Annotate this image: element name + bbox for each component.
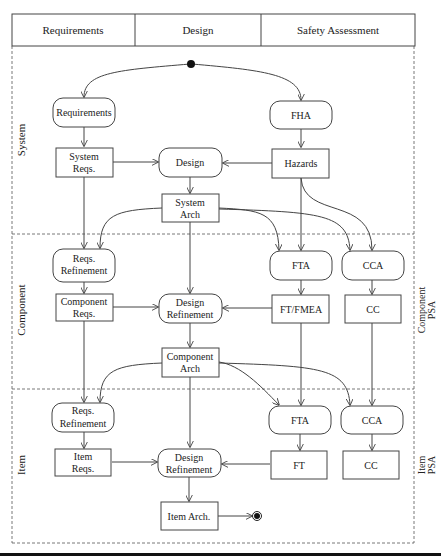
activity-component-reqs-refinement[interactable]: Reqs. Refinement (53, 249, 115, 282)
lane-label-item-psa-2: PSA (426, 455, 437, 474)
artifact-item-reqs[interactable]: Item Reqs. (55, 449, 111, 476)
activity-item-cca[interactable]: CCA (341, 406, 403, 434)
svg-text:Hazards: Hazards (285, 158, 318, 169)
artifact-item-cc[interactable]: CC (343, 451, 399, 479)
activity-fha[interactable]: FHA (270, 101, 332, 129)
svg-text:FTA: FTA (291, 415, 310, 426)
artifact-item-ft[interactable]: FT (271, 451, 327, 479)
start-node (187, 60, 195, 68)
svg-text:Reqs.: Reqs. (72, 405, 95, 416)
svg-text:Reqs.: Reqs. (73, 253, 96, 264)
header-design: Design (182, 24, 214, 36)
svg-text:Design: Design (176, 157, 204, 168)
svg-text:Arch: Arch (180, 209, 200, 220)
lane-label-component: Component (15, 284, 27, 335)
artifact-component-reqs[interactable]: Component Reqs. (56, 294, 113, 321)
header-requirements: Requirements (42, 24, 103, 36)
process-diagram: Requirements Design Safety Assessment Sy… (0, 0, 444, 560)
artifact-component-cc[interactable]: CC (345, 295, 401, 323)
edges (84, 64, 372, 516)
artifact-component-arch[interactable]: Component Arch (162, 348, 219, 377)
svg-text:Design: Design (175, 452, 203, 463)
svg-text:Item: Item (74, 451, 93, 462)
activity-component-design-refinement[interactable]: Design Refinement (159, 294, 222, 323)
svg-text:System: System (69, 151, 99, 162)
header-safety-assessment: Safety Assessment (297, 24, 379, 36)
svg-text:Refinement: Refinement (61, 265, 108, 276)
svg-text:Requirements: Requirements (56, 107, 112, 118)
svg-text:CCA: CCA (362, 415, 383, 426)
svg-text:Refinement: Refinement (60, 418, 107, 429)
svg-text:System: System (175, 197, 205, 208)
activity-item-fta[interactable]: FTA (269, 406, 331, 434)
svg-text:Reqs.: Reqs. (73, 163, 96, 174)
svg-text:Component: Component (167, 351, 214, 362)
lane-label-system: System (15, 123, 27, 156)
bottom-rule (0, 553, 441, 556)
activity-component-fta[interactable]: FTA (270, 251, 332, 280)
svg-text:Refinement: Refinement (166, 464, 213, 475)
activity-item-design-refinement[interactable]: Design Refinement (158, 449, 221, 477)
svg-text:Arch: Arch (180, 363, 200, 374)
svg-text:CC: CC (366, 304, 380, 315)
svg-text:FHA: FHA (291, 110, 312, 121)
header-row: Requirements Design Safety Assessment (12, 14, 415, 46)
svg-text:CCA: CCA (363, 260, 384, 271)
svg-text:Reqs.: Reqs. (72, 463, 95, 474)
svg-text:CC: CC (364, 460, 378, 471)
artifact-ft-fmea[interactable]: FT/FMEA (272, 295, 329, 323)
svg-text:FT/FMEA: FT/FMEA (280, 304, 323, 315)
svg-text:FT: FT (293, 460, 305, 471)
artifact-hazards[interactable]: Hazards (272, 149, 329, 178)
lane-label-component-psa-2: PSA (426, 300, 437, 319)
svg-text:Refinement: Refinement (167, 309, 214, 320)
svg-text:Item Arch.: Item Arch. (168, 511, 211, 522)
artifact-item-arch[interactable]: Item Arch. (161, 502, 218, 530)
activity-item-reqs-refinement[interactable]: Reqs. Refinement (52, 403, 114, 432)
artifact-system-arch[interactable]: System Arch (162, 194, 219, 222)
lane-label-item: Item (15, 454, 27, 475)
svg-text:FTA: FTA (292, 260, 311, 271)
svg-text:Component: Component (61, 296, 108, 307)
end-node (253, 512, 262, 521)
activity-design[interactable]: Design (159, 148, 222, 177)
svg-text:Reqs.: Reqs. (73, 308, 96, 319)
activity-component-cca[interactable]: CCA (342, 251, 404, 280)
svg-text:Design: Design (176, 297, 204, 308)
artifact-system-reqs[interactable]: System Reqs. (56, 148, 113, 177)
activity-requirements[interactable]: Requirements (53, 98, 115, 127)
